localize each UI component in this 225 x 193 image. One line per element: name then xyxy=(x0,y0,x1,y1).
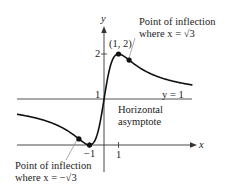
asymptote-caption-line1: Horizontal xyxy=(118,104,163,115)
inflection-pos-label-line2: where x = √3 xyxy=(139,28,195,39)
y-axis-arrow-icon xyxy=(101,26,106,33)
asymptote-equation-label: y = 1 xyxy=(162,89,184,100)
x-tick-label-1: 1 xyxy=(116,149,121,160)
inflection-neg-label-line2: where x = −√3 xyxy=(15,172,77,183)
leader-line-inflection-neg xyxy=(66,138,78,160)
function-graph: y x 2 1 −1 1 (1, 2) Point of inflection … xyxy=(0,0,225,193)
asymptote-caption-line2: asymptote xyxy=(118,116,161,127)
point-inflection-neg xyxy=(76,136,81,141)
point-inflection-pos xyxy=(127,57,132,62)
x-axis-label: x xyxy=(199,139,204,150)
maximum-point-label: (1, 2) xyxy=(109,38,132,49)
y-axis-label: y xyxy=(101,13,106,24)
y-tick-label-1: 1 xyxy=(95,89,100,100)
inflection-pos-label-line1: Point of inflection xyxy=(139,16,215,27)
inflection-neg-label-line1: Point of inflection xyxy=(15,160,91,171)
y-tick-label-2: 2 xyxy=(95,48,100,59)
x-axis-arrow-icon xyxy=(190,142,197,147)
x-tick-label-neg1: −1 xyxy=(84,148,95,159)
point-minimum xyxy=(87,142,92,147)
point-maximum xyxy=(116,51,121,56)
